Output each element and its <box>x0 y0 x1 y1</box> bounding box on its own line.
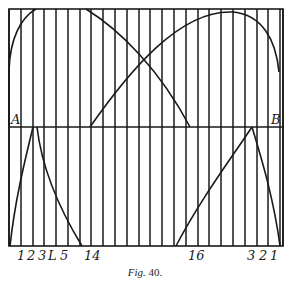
caption-number: 40. <box>149 266 163 278</box>
bottom-label: 2 <box>26 248 35 263</box>
bottom-labels: 123L51416321 <box>17 248 278 263</box>
point-label-b: B <box>270 112 281 127</box>
caption-prefix: Fig. <box>128 266 146 278</box>
bottom-label: L <box>47 248 57 263</box>
bottom-label: 3 <box>38 248 46 263</box>
bottom-label: 1 <box>17 248 25 263</box>
lower-right-rise-curve <box>176 127 252 246</box>
figure-caption: Fig. 40. <box>0 266 290 278</box>
point-label-a: A <box>10 112 20 127</box>
bottom-label: 5 <box>60 248 68 263</box>
upper-left-arc-curve <box>9 9 36 127</box>
bottom-label: 3 <box>247 248 255 263</box>
bottom-label: 2 <box>258 248 267 263</box>
figure-40-diagram: A B 123L51416321 <box>0 0 290 285</box>
bottom-label: 1 <box>270 248 278 263</box>
bottom-label: 14 <box>84 248 101 263</box>
upper-right-arc-curve <box>90 12 279 127</box>
bottom-label: 16 <box>188 248 205 263</box>
lower-right-fall-curve <box>252 127 280 246</box>
